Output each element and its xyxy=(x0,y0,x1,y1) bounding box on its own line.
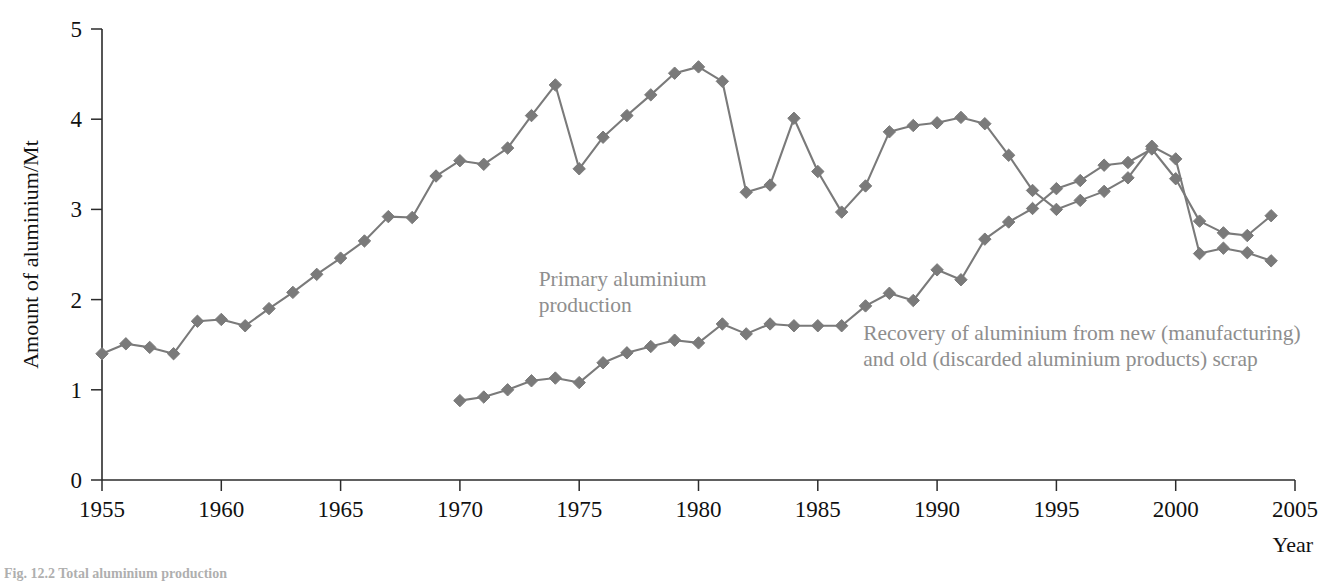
data-point-marker xyxy=(907,119,919,131)
data-point-marker xyxy=(788,112,800,124)
data-point-marker xyxy=(1265,255,1277,267)
figure-caption: Fig. 12.2 Total aluminium production xyxy=(4,566,227,582)
x-tick-label: 1990 xyxy=(914,497,960,522)
axes xyxy=(102,29,1295,480)
x-tick-label: 1970 xyxy=(437,497,483,522)
x-tick-label: 1995 xyxy=(1033,497,1079,522)
data-point-marker xyxy=(1241,246,1253,258)
data-point-marker xyxy=(525,375,537,387)
axis-ticks xyxy=(91,29,1295,491)
data-point-marker xyxy=(1193,215,1205,227)
data-point-marker xyxy=(645,340,657,352)
data-point-marker xyxy=(215,313,227,325)
x-tick-label: 1960 xyxy=(198,497,244,522)
data-point-marker xyxy=(478,158,490,170)
x-tick-label: 1980 xyxy=(676,497,722,522)
data-point-marker xyxy=(883,287,895,299)
data-point-marker xyxy=(96,348,108,360)
y-tick-label: 2 xyxy=(71,288,83,313)
data-point-marker xyxy=(788,320,800,332)
series-primary-production xyxy=(96,61,1278,360)
data-point-marker xyxy=(668,334,680,346)
data-point-marker xyxy=(812,320,824,332)
data-point-marker xyxy=(764,179,776,191)
data-point-marker xyxy=(812,165,824,177)
y-tick-label: 4 xyxy=(71,107,83,132)
data-point-marker xyxy=(955,274,967,286)
data-point-marker xyxy=(501,384,513,396)
data-point-marker xyxy=(621,347,633,359)
series-line xyxy=(102,67,1271,354)
y-tick-label: 0 xyxy=(71,468,83,493)
data-point-marker xyxy=(931,117,943,129)
data-point-marker xyxy=(1170,153,1182,165)
data-point-marker xyxy=(1217,242,1229,254)
annotation-line: and old (discarded aluminium products) s… xyxy=(863,347,1258,371)
data-point-marker xyxy=(1098,185,1110,197)
data-point-marker xyxy=(955,111,967,123)
annotation-line: production xyxy=(539,293,632,317)
data-point-marker xyxy=(1074,174,1086,186)
annotation-line: Recovery of aluminium from new (manufact… xyxy=(863,321,1301,345)
data-point-marker xyxy=(740,186,752,198)
data-point-marker xyxy=(549,372,561,384)
data-point-marker xyxy=(740,328,752,340)
data-point-marker xyxy=(1098,159,1110,171)
y-axis-title: Amount of aluminium/Mt xyxy=(18,140,43,369)
y-tick-label: 3 xyxy=(71,197,83,222)
data-point-marker xyxy=(120,338,132,350)
x-tick-label: 2000 xyxy=(1153,497,1199,522)
data-point-marker xyxy=(454,154,466,166)
y-tick-label: 1 xyxy=(71,378,83,403)
x-tick-label: 2005 xyxy=(1272,497,1318,522)
x-tick-label: 1965 xyxy=(318,497,364,522)
data-point-marker xyxy=(144,341,156,353)
data-point-marker xyxy=(764,318,776,330)
data-point-marker xyxy=(478,391,490,403)
recovery-label: Recovery of aluminium from new (manufact… xyxy=(863,321,1301,371)
x-tick-label: 1985 xyxy=(795,497,841,522)
data-point-marker xyxy=(406,211,418,223)
x-tick-label: 1955 xyxy=(79,497,125,522)
data-point-marker xyxy=(883,126,895,138)
data-point-marker xyxy=(1193,247,1205,259)
y-tick-label: 5 xyxy=(71,17,83,42)
data-point-marker xyxy=(430,170,442,182)
series-annotations: Primary aluminiumproductionRecovery of a… xyxy=(539,267,1301,371)
data-point-marker xyxy=(692,61,704,73)
data-point-marker xyxy=(1074,194,1086,206)
x-axis-title: Year xyxy=(1272,532,1313,557)
data-point-marker xyxy=(716,75,728,87)
annotation-line: Primary aluminium xyxy=(539,267,707,291)
x-tick-label: 1975 xyxy=(556,497,602,522)
data-point-marker xyxy=(1122,156,1134,168)
data-point-marker xyxy=(454,394,466,406)
data-point-marker xyxy=(1217,227,1229,239)
primary-label: Primary aluminiumproduction xyxy=(539,267,707,317)
